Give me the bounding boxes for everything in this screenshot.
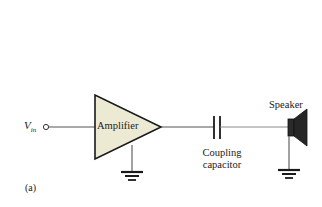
input-voltage-subscript: in [31,126,36,134]
speaker-label: Speaker [269,99,303,111]
input-voltage-label: Vin [24,119,36,135]
figure-caption: (a) [25,182,36,193]
circuit-diagram-canvas: Vin Amplifier Couplingcapacitor Speaker … [0,0,322,207]
input-terminal-icon [43,124,48,129]
amplifier-label: Amplifier [97,120,138,132]
speaker-body-icon [288,119,294,136]
coupling-capacitor-label: Couplingcapacitor [190,147,254,171]
coupling-capacitor-label-line1: Coupling [202,147,241,158]
speaker-cone-icon [294,109,307,146]
coupling-capacitor-label-line2: capacitor [203,159,241,170]
input-voltage-symbol: V [24,119,31,131]
